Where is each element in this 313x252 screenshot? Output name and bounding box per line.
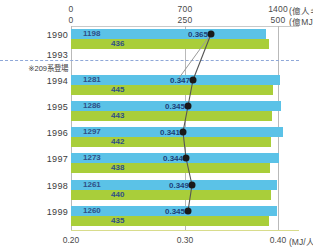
bottom-axis-tick-030: 0.30	[177, 235, 194, 245]
line-value-1998: 0.349	[169, 181, 189, 190]
line-value-1999: 0.345	[165, 207, 185, 216]
line-value-1996: 0.341	[160, 128, 180, 137]
line-value-1994: 0.347	[170, 76, 190, 85]
bottom-axis: 0.20 0.30 0.40 (MJ/人キロ)	[0, 232, 313, 250]
year-label-1996: 1996	[47, 128, 68, 138]
line-point-1995	[185, 103, 192, 110]
top-axis1-tick-1400: 1400	[268, 4, 288, 14]
line-point-1990	[208, 31, 215, 38]
bottom-axis-tick-040: 0.40	[270, 235, 287, 245]
line-point-1999	[185, 208, 192, 215]
year-label-1999: 1999	[47, 207, 68, 217]
top-axis2-tick-250: 250	[178, 15, 193, 25]
line-value-1995: 0.345	[165, 102, 185, 111]
top-axis: 0 700 1400 (億人キロ) 0 250 500 (億MJ)	[0, 4, 313, 28]
year-label-1990: 1990	[47, 30, 68, 40]
year-label-1993: 1993	[47, 50, 68, 60]
line-point-1997	[183, 155, 190, 162]
top-axis2-tick-500: 500	[271, 15, 286, 25]
leader-line-1990	[71, 26, 299, 230]
top-axis2-tick-0: 0	[69, 15, 74, 25]
line-series-overlay: 0.365 0.347 0.345 0.341 0.344 0.349 0.34…	[71, 26, 299, 230]
year-label-1998: 1998	[47, 181, 68, 191]
line-point-1998	[189, 182, 196, 189]
chart-canvas: 0 700 1400 (億人キロ) 0 250 500 (億MJ) 1990 1…	[0, 0, 313, 252]
top-axis1-tick-0: 0	[69, 4, 74, 14]
annotation-209-series: ※209系登場	[28, 62, 68, 73]
bottom-axis-unit: (MJ/人キロ)	[289, 235, 313, 247]
year-axis: 1990 1993 ※209系登場 1994 1995 1996 1997 19…	[0, 26, 68, 230]
line-point-1996	[180, 129, 187, 136]
line-value-1997: 0.344	[163, 154, 183, 163]
bottom-axis-tick-020: 0.20	[63, 235, 80, 245]
year-label-1994: 1994	[47, 76, 68, 86]
year-label-1997: 1997	[47, 154, 68, 164]
year-label-1995: 1995	[47, 102, 68, 112]
top-axis1-tick-700: 700	[178, 4, 193, 14]
axis-bottom-line	[71, 230, 299, 231]
line-point-1994	[190, 77, 197, 84]
line-value-1990: 0.365	[188, 30, 208, 39]
